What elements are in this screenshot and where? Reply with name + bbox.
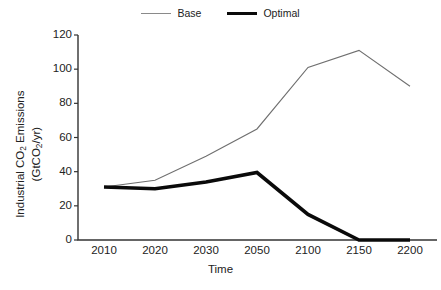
x-axis-tick-label: 2200 xyxy=(380,245,440,257)
y-axis-title: Industrial CO2 Emissions (GtCO2/yr) xyxy=(13,49,45,259)
x-axis-tick-labels: 2010202020302050210021502200 xyxy=(0,0,441,290)
chart-figure: Base Optimal 120100806040200 20102020203… xyxy=(0,0,441,290)
y-axis-title-line2: (GtCO2/yr) xyxy=(29,49,45,259)
x-axis-title: Time xyxy=(0,263,441,275)
y-axis-title-line1: Industrial CO2 Emissions xyxy=(14,91,26,218)
